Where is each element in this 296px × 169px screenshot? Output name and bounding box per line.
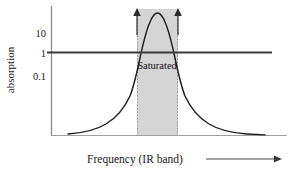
saturated-band-rect xyxy=(137,9,178,135)
plot-canvas: 10 1 0.1 absorption Saturated Frequency … xyxy=(0,0,296,169)
y-tick-label-0-1: 0.1 xyxy=(33,71,46,82)
saturated-label: Saturated xyxy=(137,60,177,71)
x-axis-title: Frequency (IR band) xyxy=(87,153,183,166)
y-axis-title: absorption xyxy=(4,46,16,93)
frequency-direction-arrow xyxy=(206,156,282,163)
y-tick-label-10: 10 xyxy=(36,28,47,39)
absorption-spectrum-figure: 10 1 0.1 absorption Saturated Frequency … xyxy=(0,0,296,169)
y-tick-label-1: 1 xyxy=(41,48,46,59)
